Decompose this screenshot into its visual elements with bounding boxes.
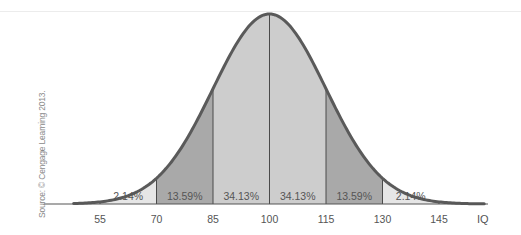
- bell-curve-chart: 2.14%13.59%34.13%34.13%13.59%2.14% 55708…: [0, 0, 521, 235]
- band-3: [270, 14, 327, 204]
- band-2: [213, 14, 270, 204]
- x-axis-label: IQ: [477, 213, 489, 225]
- band-label: 13.59%: [167, 190, 203, 202]
- x-tick-label: 70: [151, 213, 163, 225]
- band-label: 2.14%: [396, 190, 426, 202]
- x-tick-label: 115: [318, 213, 335, 225]
- band-label: 34.13%: [223, 190, 259, 202]
- x-tick-labels: 557085100115130145: [94, 213, 448, 225]
- band-label: 2.14%: [113, 190, 143, 202]
- sd-dividers: [100, 14, 439, 204]
- x-tick-label: 55: [94, 213, 106, 225]
- x-tick-label: 100: [261, 213, 279, 225]
- source-note: Source: © Cengage Learning 2013.: [37, 91, 47, 218]
- band-label: 13.59%: [336, 190, 372, 202]
- x-tick-label: 85: [207, 213, 219, 225]
- x-tick-label: 145: [430, 213, 448, 225]
- band-label: 34.13%: [280, 190, 316, 202]
- x-tick-label: 130: [374, 213, 392, 225]
